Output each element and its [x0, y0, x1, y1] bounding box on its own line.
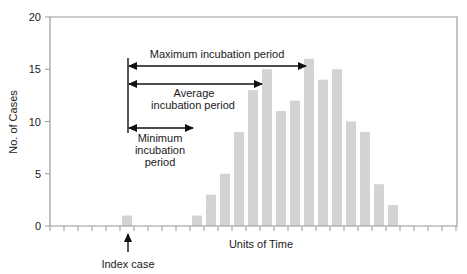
- bar: [276, 111, 286, 226]
- avg-period-label-line1: Average: [174, 87, 215, 99]
- bar: [262, 69, 272, 226]
- index-case-label: Index case: [101, 258, 154, 270]
- bar: [248, 90, 258, 226]
- bar: [360, 132, 370, 226]
- y-axis-label: No. of Cases: [7, 90, 19, 154]
- bar: [206, 195, 216, 226]
- bar: [374, 184, 384, 226]
- y-tick-label: 5: [35, 168, 41, 180]
- x-axis-label: Units of Time: [229, 238, 293, 250]
- bar: [192, 216, 202, 226]
- min-period-label-line1: Minimum: [138, 132, 183, 144]
- y-tick-label: 0: [35, 220, 41, 232]
- epidemic-curve-chart: 05101520 No. of Cases Units of Time Inde…: [0, 0, 467, 274]
- min-period-label-line2: incubation: [135, 144, 185, 156]
- avg-period-label-line2: incubation period: [151, 99, 235, 111]
- x-axis-ticks: [50, 226, 456, 231]
- y-tick-label: 20: [29, 11, 41, 23]
- bar: [220, 174, 230, 226]
- bar: [304, 59, 314, 226]
- bar: [332, 69, 342, 226]
- bar: [318, 80, 328, 226]
- bar: [234, 132, 244, 226]
- y-tick-label: 15: [29, 63, 41, 75]
- y-tick-label: 10: [29, 116, 41, 128]
- max-period-label: Maximum incubation period: [150, 48, 285, 60]
- bar: [122, 216, 132, 226]
- bar: [388, 205, 398, 226]
- min-period-label-line3: period: [145, 156, 176, 168]
- bar: [290, 101, 300, 226]
- bar: [346, 122, 356, 227]
- y-axis-ticks: 05101520: [29, 11, 50, 232]
